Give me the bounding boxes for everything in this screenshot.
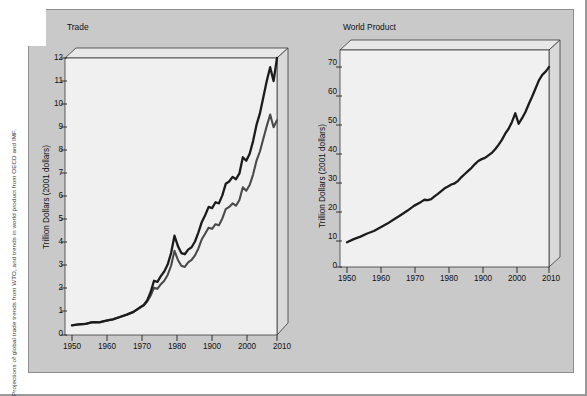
source-caption: Projections of global trade trends from … — [0, 0, 28, 396]
panel3d-top-face-trade — [65, 48, 288, 58]
plot-face-wp — [340, 50, 549, 267]
page-corner-notch — [0, 0, 46, 46]
xtick-marks-trade — [72, 335, 277, 341]
panel3d-top-face-wp — [340, 40, 560, 50]
panel3d-right-face-trade — [277, 48, 288, 335]
plot-area-world-product — [309, 10, 575, 374]
xtick-marks-wp — [347, 267, 549, 273]
figure-card: Trade Trillion Dollars (2001 dollars) 12… — [28, 9, 574, 373]
plot-face-trade — [65, 58, 277, 335]
panel3d-right-face-wp — [549, 40, 560, 267]
panel-trade: Trade Trillion Dollars (2001 dollars) 12… — [29, 10, 304, 374]
plot-area-trade — [29, 10, 304, 374]
panel-world-product: World Product Trillion Dollars (2001 dol… — [309, 10, 575, 374]
source-caption-text: Projections of global trade trends from … — [11, 121, 17, 396]
